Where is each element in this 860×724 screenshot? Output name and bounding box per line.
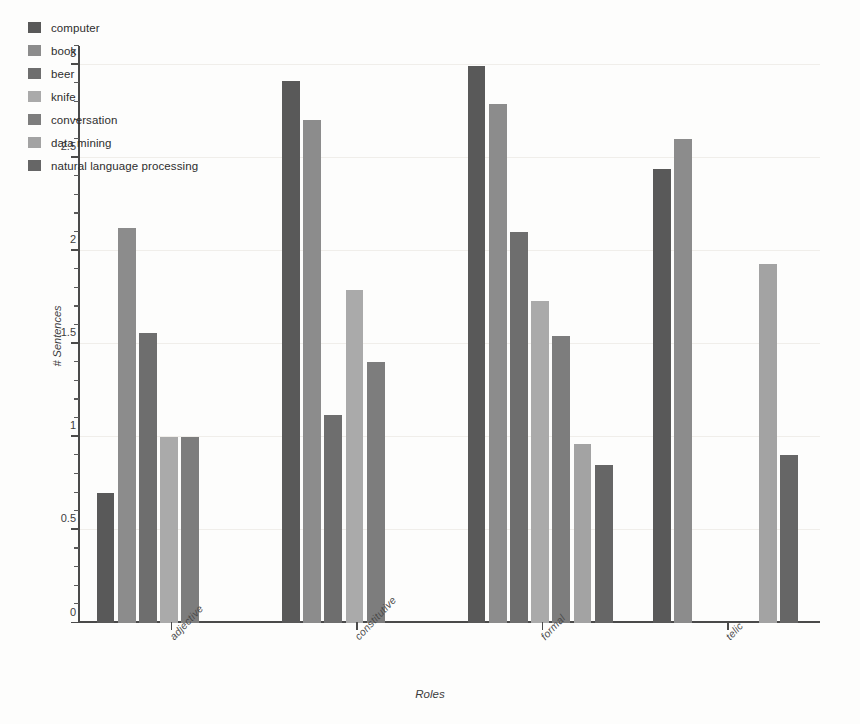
bar: [139, 333, 157, 623]
chart-figure: 00.511.522.53 adjectiveconstitutiveforma…: [0, 0, 860, 724]
legend-swatch-icon: [28, 137, 41, 148]
bar: [97, 493, 115, 623]
bar: [595, 465, 613, 623]
bar: [118, 228, 136, 623]
bar: [759, 264, 777, 623]
bar: [468, 66, 486, 623]
y-tick-minor: [74, 231, 79, 232]
y-tick-minor: [74, 305, 79, 306]
y-tick-major: [71, 249, 79, 251]
y-tick-major: [71, 435, 79, 437]
legend-item: conversation: [28, 108, 198, 131]
y-tick-label: 2: [36, 233, 76, 245]
legend-item: knife: [28, 85, 198, 108]
bar: [510, 232, 528, 623]
gridline: [79, 343, 820, 344]
legend-item-label: data mining: [51, 137, 112, 149]
legend-swatch-icon: [28, 91, 41, 102]
y-tick-minor: [74, 417, 79, 418]
y-tick-major: [71, 528, 79, 530]
legend-item: computer: [28, 16, 198, 39]
legend-swatch-icon: [28, 68, 41, 79]
bar: [674, 139, 692, 623]
y-tick-label: 1: [36, 419, 76, 431]
legend-item-label: conversation: [51, 114, 117, 126]
y-tick-minor: [74, 361, 79, 362]
y-tick-label: 0: [36, 606, 76, 618]
y-tick-minor: [74, 194, 79, 195]
y-tick-minor: [74, 398, 79, 399]
legend-item-label: book: [51, 45, 76, 57]
legend-item-label: natural language processing: [51, 160, 198, 172]
y-tick-minor: [74, 380, 79, 381]
legend-swatch-icon: [28, 45, 41, 56]
legend-item-label: computer: [51, 22, 100, 34]
bar: [552, 336, 570, 623]
y-tick-minor: [74, 566, 79, 567]
y-tick-minor: [74, 585, 79, 586]
bar: [324, 415, 342, 623]
legend-swatch-icon: [28, 114, 41, 125]
x-axis-title: Roles: [0, 688, 860, 700]
legend-item: beer: [28, 62, 198, 85]
bar: [367, 362, 385, 623]
y-tick-minor: [74, 268, 79, 269]
legend-item-label: knife: [51, 91, 76, 103]
y-tick-minor: [74, 212, 79, 213]
y-tick-major: [71, 342, 79, 344]
bar: [780, 455, 798, 623]
chart-legend: computerbookbeerknifeconversationdata mi…: [28, 16, 198, 177]
y-tick-minor: [74, 454, 79, 455]
legend-item: book: [28, 39, 198, 62]
y-tick-label: 0.5: [36, 512, 76, 524]
legend-item-label: beer: [51, 68, 74, 80]
legend-swatch-icon: [28, 160, 41, 171]
bar: [303, 120, 321, 623]
y-tick-minor: [74, 510, 79, 511]
y-tick-minor: [74, 287, 79, 288]
legend-swatch-icon: [28, 22, 41, 33]
y-tick-minor: [74, 603, 79, 604]
bar: [160, 437, 178, 623]
y-tick-minor: [74, 547, 79, 548]
gridline: [79, 250, 820, 251]
y-tick-major: [71, 622, 79, 624]
legend-item: natural language processing: [28, 154, 198, 177]
bar: [489, 104, 507, 623]
legend-item: data mining: [28, 131, 198, 154]
y-tick-minor: [74, 492, 79, 493]
bar: [181, 437, 199, 623]
bar: [346, 290, 364, 623]
bar: [574, 444, 592, 623]
y-axis-title: # Sentences: [51, 305, 63, 366]
y-tick-minor: [74, 324, 79, 325]
bar: [531, 301, 549, 623]
bar: [282, 81, 300, 623]
bar: [653, 169, 671, 623]
y-tick-minor: [74, 473, 79, 474]
